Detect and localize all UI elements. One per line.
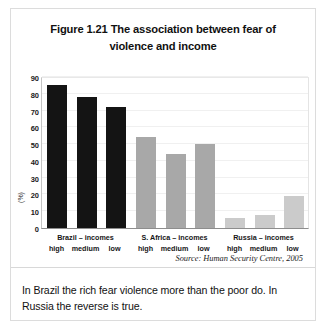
bar [166, 154, 186, 228]
x-axis-category-label: low [100, 243, 129, 254]
bar [47, 85, 67, 228]
y-axis-tick-label: 80 [31, 90, 39, 99]
x-axis-category-row: highmediumlow [41, 243, 130, 254]
y-axis-title: (%) [17, 190, 24, 206]
y-axis-tick-label: 20 [31, 191, 39, 200]
page-title: Figure 1.21 The association between fear… [11, 9, 315, 55]
x-axis-category-label: high [131, 243, 160, 254]
y-axis-tick-label: 0 [35, 225, 39, 234]
x-axis-category-label: high [220, 243, 249, 254]
bar [284, 196, 304, 228]
bar [195, 144, 215, 228]
x-axis-category-label: medium [71, 243, 100, 254]
x-axis-category-label: medium [160, 243, 189, 254]
bar [136, 137, 156, 228]
y-axis-tick-label: 50 [31, 141, 39, 150]
y-axis-tick-label: 40 [31, 157, 39, 166]
x-axis-group-label: S. Africa – incomeshighmediumlow [130, 232, 219, 254]
bar [106, 107, 126, 228]
x-axis-category-row: highmediumlow [219, 243, 308, 254]
bar [77, 97, 97, 228]
x-axis-group-label: Brazil – incomeshighmediumlow [41, 232, 130, 254]
y-axis-tick-label: 90 [31, 74, 39, 83]
x-axis-category-label: low [278, 243, 307, 254]
figure-card: Figure 1.21 The association between fear… [10, 8, 316, 321]
x-axis-group-label: Russia – incomeshighmediumlow [219, 232, 308, 254]
gridline [42, 76, 308, 77]
x-axis-category-label: low [189, 243, 218, 254]
bars-container [42, 78, 308, 228]
y-axis-tick-label: 70 [31, 107, 39, 116]
bar [225, 218, 245, 228]
y-axis-tick-label: 60 [31, 124, 39, 133]
bar-chart: (%) 0102030405060708090 Brazil – incomes… [11, 64, 315, 264]
x-axis-group-name: Brazil – incomes [41, 232, 130, 243]
x-axis-group-name: Russia – incomes [219, 232, 308, 243]
x-axis-category-label: medium [249, 243, 278, 254]
figure-caption: In Brazil the rich fear violence more th… [22, 282, 304, 314]
x-axis-category-label: high [42, 243, 71, 254]
y-axis-tick-label: 30 [31, 174, 39, 183]
bar [255, 215, 275, 228]
source-note: Source: Human Security Centre, 2005 [175, 254, 303, 263]
plot-area: 0102030405060708090 [41, 77, 309, 229]
x-axis-category-row: highmediumlow [130, 243, 219, 254]
divider [11, 267, 315, 268]
x-axis-group-name: S. Africa – incomes [130, 232, 219, 243]
y-axis-tick-label: 10 [31, 208, 39, 217]
